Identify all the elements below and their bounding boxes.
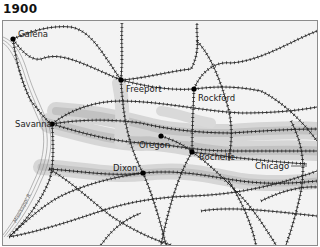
city-label: Galena (18, 29, 48, 39)
city-label: Oregon (139, 140, 170, 150)
railroad-map: Mississippi R. (2, 20, 318, 246)
map-title: 1900 (3, 2, 37, 16)
city-label: Rochelle (199, 152, 235, 162)
city-label: Dixon (113, 163, 137, 173)
city-savanna[interactable]: Savanna (15, 119, 55, 129)
city-dot-icon (10, 36, 15, 41)
city-label: Rockford (198, 93, 235, 103)
city-dot-icon (140, 170, 145, 175)
city-dot-icon (189, 149, 194, 154)
city-dot-icon (191, 86, 196, 91)
city-dot-icon (118, 77, 123, 82)
city-galena[interactable]: Galena (10, 29, 48, 42)
city-dot-icon (158, 133, 163, 138)
city-chicago[interactable]: Chicago (255, 161, 307, 171)
map-canvas: Mississippi R. (3, 21, 317, 245)
city-label: Chicago (255, 161, 289, 171)
city-label: Freeport (126, 84, 162, 94)
city-label: Savanna (15, 119, 52, 129)
